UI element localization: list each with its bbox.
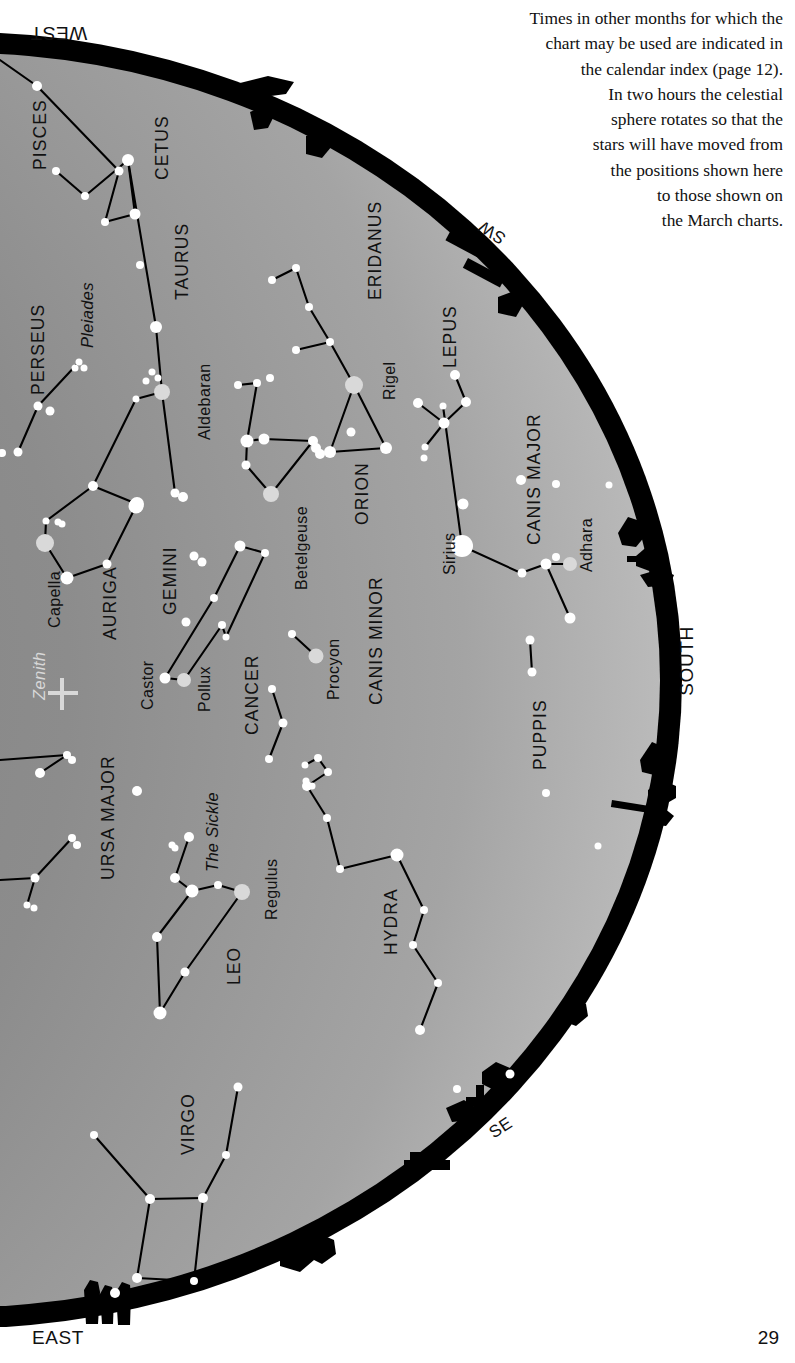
star-dot [606, 482, 613, 489]
star-dot [434, 979, 442, 987]
star-dot [34, 402, 43, 411]
star-dot [14, 448, 23, 457]
star-dot [422, 444, 429, 451]
star-dot [380, 442, 392, 454]
star-dot [214, 881, 222, 889]
star-dot [68, 834, 76, 842]
star-dot [242, 461, 251, 470]
constellation-label-puppis: PUPPIS [530, 699, 551, 770]
star-dot [31, 905, 38, 912]
star-dot [595, 843, 602, 850]
star-dot [324, 446, 336, 458]
star-dot [72, 365, 79, 372]
compass-label-west: WEST [30, 22, 87, 44]
star-dot [506, 1070, 515, 1079]
star-dot [36, 534, 54, 552]
star-dot [190, 552, 199, 561]
star-dot [81, 192, 89, 200]
star-dot [198, 1193, 208, 1203]
star-label-capella: Capella [46, 571, 64, 628]
chart-instructions-text: Times in other months for which the char… [423, 6, 783, 234]
star-dot [265, 755, 273, 763]
star-dot [302, 762, 309, 769]
star-dot [461, 397, 471, 407]
star-dot [32, 81, 42, 91]
star-label-pollux: Pollux [196, 666, 214, 712]
star-label-rigel: Rigel [381, 362, 399, 400]
star-dot [261, 549, 269, 557]
star-dot [186, 885, 199, 898]
star-dot [440, 403, 447, 410]
star-dot [526, 636, 535, 645]
star-dot [305, 303, 313, 311]
star-dot [345, 376, 363, 394]
star-dot [288, 630, 296, 638]
star-dot [115, 167, 124, 176]
star-dot [154, 1007, 167, 1020]
star-dot [458, 499, 469, 510]
constellation-label-perseus: PERSEUS [28, 304, 49, 395]
star-dot [130, 497, 144, 511]
constellation-label-orion: ORION [352, 462, 373, 525]
star-dot [528, 668, 537, 677]
star-dot [309, 649, 324, 664]
star-dot [420, 906, 428, 914]
star-dot [150, 321, 162, 333]
asterism-label-pleiades: Pleiades [78, 282, 97, 348]
star-dot [421, 455, 428, 462]
star-dot [101, 218, 109, 226]
star-dot [413, 398, 423, 408]
star-dot [149, 369, 156, 376]
star-dot [324, 768, 332, 776]
constellation-label-canis-minor: CANIS MINOR [366, 576, 387, 705]
star-dot [234, 1083, 243, 1092]
star-dot [259, 434, 270, 445]
star-label-aldebaran: Aldebaran [196, 363, 214, 440]
star-dot [409, 941, 417, 949]
zenith-label: Zenith [30, 652, 49, 700]
star-dot [253, 379, 261, 387]
star-dot [326, 338, 334, 346]
star-dot [541, 559, 552, 570]
star-dot [143, 378, 150, 385]
star-dot [170, 873, 180, 883]
star-dot [268, 685, 276, 693]
asterism-label-the-sickle: The Sickle [203, 792, 222, 872]
star-dot [177, 673, 191, 687]
compass-label-east: EAST [32, 1327, 84, 1349]
constellation-label-eridanus: ERIDANUS [365, 201, 386, 300]
star-dot [68, 756, 76, 764]
constellation-label-canis-major: CANIS MAJOR [524, 413, 545, 545]
star-dot [155, 375, 162, 382]
star-dot [563, 557, 577, 571]
star-dot [210, 594, 218, 602]
star-dot [314, 754, 322, 762]
constellation-label-virgo: VIRGO [178, 1093, 199, 1155]
star-dot [218, 621, 226, 629]
constellation-line [150, 1198, 203, 1199]
star-dot [133, 396, 140, 403]
star-dot [234, 884, 250, 900]
star-label-sirius: Sirius [441, 533, 459, 575]
star-dot [132, 786, 142, 796]
star-label-betelgeuse: Betelgeuse [293, 506, 311, 590]
star-dot [302, 781, 312, 791]
star-dot [198, 558, 207, 567]
star-dot [552, 480, 560, 488]
star-dot [565, 613, 576, 624]
star-dot [241, 435, 254, 448]
star-dot [415, 1025, 425, 1035]
compass-label-south: SOUTH [676, 626, 698, 696]
star-dot [182, 618, 191, 627]
constellation-label-lepus: LEPUS [440, 305, 461, 368]
constellation-label-gemini: GEMINI [160, 546, 181, 615]
star-dot [90, 1131, 98, 1139]
star-dot [73, 841, 81, 849]
star-dot [160, 673, 171, 684]
star-dot [35, 768, 45, 778]
star-dot [268, 276, 276, 284]
star-dot [132, 1273, 142, 1283]
star-dot [439, 418, 450, 429]
star-dot [110, 1288, 120, 1298]
constellation-label-cancer: CANCER [242, 655, 263, 736]
